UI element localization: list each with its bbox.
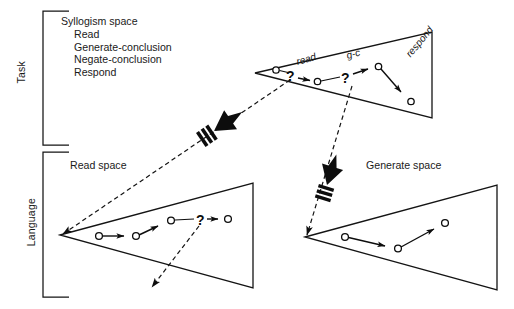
generate-space-path	[342, 220, 449, 252]
operator-arrow	[139, 226, 158, 235]
impasse-link-read	[63, 80, 290, 234]
generate-space-label: Generate space	[366, 159, 441, 172]
operator-item-read: Read	[74, 28, 172, 41]
state-node	[96, 233, 103, 240]
operator-item-respond: Respond	[74, 66, 172, 79]
state-node	[133, 233, 140, 240]
operator-arrow-read	[298, 78, 310, 81]
read-space-triangle	[60, 183, 253, 288]
state-node	[225, 216, 232, 223]
thick-striped-arrow-read	[194, 102, 248, 149]
thick-striped-arrow-generate	[312, 151, 347, 203]
state-node	[375, 63, 381, 69]
syllogism-space-heading: Syllogism space	[61, 15, 172, 28]
language-bracket	[43, 152, 69, 297]
task-level-label: Task	[15, 42, 27, 102]
impasse-question-mark-top-second: ?	[341, 70, 350, 86]
read-space-path	[96, 216, 232, 240]
read-space-impasse-link	[152, 226, 199, 287]
state-node	[395, 245, 402, 252]
impasse-question-mark-read-space: ?	[196, 212, 205, 228]
figure-canvas: Task Language Syllogism space Read Gener…	[0, 0, 514, 309]
language-level-label: Language	[25, 177, 37, 267]
state-node	[442, 220, 449, 227]
operator-arrow-respond	[381, 69, 401, 92]
state-node	[342, 234, 349, 241]
state-node	[314, 78, 320, 84]
generate-space-triangle	[305, 185, 497, 290]
state-node	[273, 67, 279, 73]
operator-arrow	[349, 238, 386, 247]
impasse-link-generate	[307, 86, 352, 235]
syllogism-space-operator-list: Syllogism space Read Generate-conclusion…	[61, 15, 172, 78]
impasse-question-mark-top-first: ?	[286, 68, 295, 84]
operator-item-negate-conclusion: Negate-conclusion	[74, 53, 172, 66]
operator-item-generate-conclusion: Generate-conclusion	[74, 41, 172, 54]
read-space-label: Read space	[70, 159, 127, 172]
state-node	[408, 98, 414, 104]
operator-arrow-gc	[353, 69, 368, 74]
operator-arrow	[401, 229, 434, 247]
state-node	[168, 217, 175, 224]
